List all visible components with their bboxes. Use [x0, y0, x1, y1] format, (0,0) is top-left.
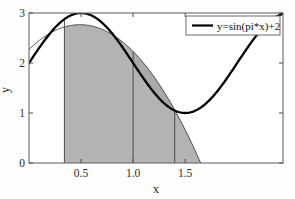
- legend-label: y=sin(pi*x)+2: [217, 20, 280, 33]
- y-tick-label: 3: [19, 7, 25, 19]
- y-tick-label: 0: [19, 157, 25, 169]
- shaded-region-left: [64, 25, 133, 163]
- chart-figure: 0.51.01.5 0123 x y y=sin(pi*x)+2: [0, 0, 295, 199]
- x-axis-tick-labels: 0.51.01.5: [74, 167, 193, 179]
- x-tick-label: 1.5: [178, 167, 193, 179]
- legend[interactable]: y=sin(pi*x)+2: [186, 16, 280, 35]
- y-axis-tick-labels: 0123: [19, 7, 25, 169]
- x-axis-label: x: [153, 182, 159, 196]
- x-tick-label: 1.0: [126, 167, 141, 179]
- y-tick-label: 2: [19, 57, 25, 69]
- y-axis-label: y: [0, 87, 12, 93]
- x-tick-label: 0.5: [74, 167, 89, 179]
- y-tick-label: 1: [19, 107, 25, 119]
